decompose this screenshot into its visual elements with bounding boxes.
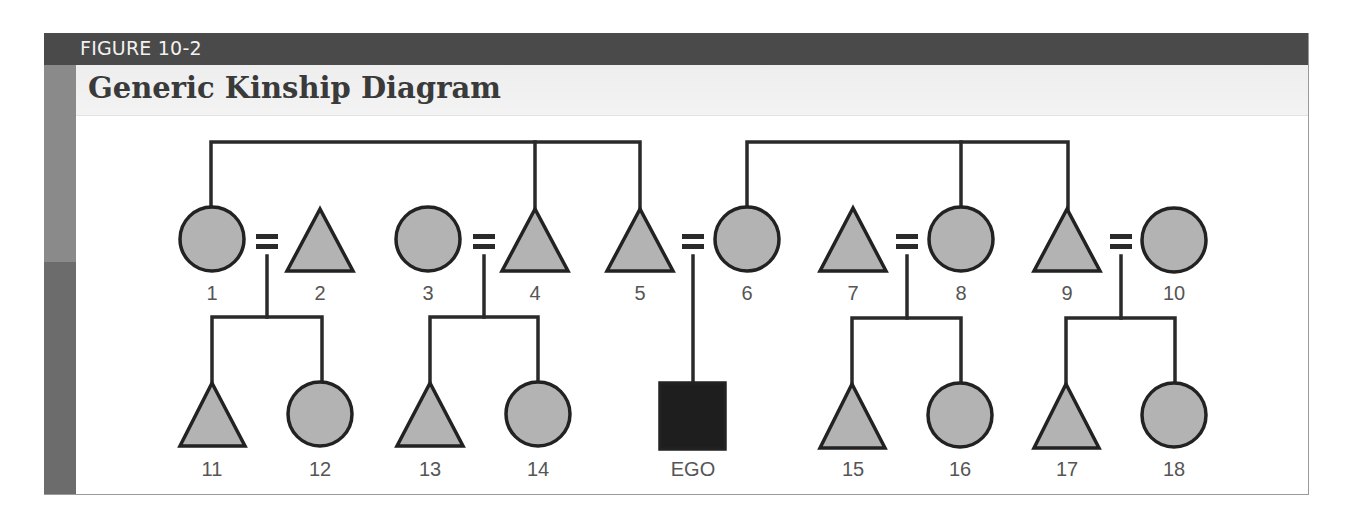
female-circle-icon xyxy=(1142,383,1206,447)
node-label: 8 xyxy=(955,282,966,304)
female-circle-icon xyxy=(396,207,460,271)
node-label: 1 xyxy=(206,282,217,304)
male-triangle-icon xyxy=(502,209,568,271)
equals-icon xyxy=(473,234,495,249)
male-triangle-icon xyxy=(1034,209,1100,271)
equals-icon xyxy=(896,234,918,249)
node-label: 9 xyxy=(1061,282,1072,304)
equals-icon xyxy=(256,234,278,249)
female-circle-icon xyxy=(1142,208,1206,272)
node-label: 12 xyxy=(309,458,331,480)
male-triangle-icon xyxy=(607,209,673,271)
sibling-line-right xyxy=(747,142,1068,209)
children-line-15-16 xyxy=(852,318,961,383)
node-label: 3 xyxy=(422,282,433,304)
female-circle-icon xyxy=(180,207,244,271)
kinship-diagram: 1 2 3 4 5 6 7 8 9 10 11 12 13 14 EGO 15 … xyxy=(0,0,1348,524)
equals-icon xyxy=(682,234,704,249)
male-triangle-icon xyxy=(180,383,245,446)
marriage-symbols xyxy=(256,234,1132,249)
generation-2 xyxy=(180,382,1206,449)
male-triangle-icon xyxy=(820,384,885,448)
node-label: 17 xyxy=(1056,458,1078,480)
male-triangle-icon xyxy=(287,209,353,271)
connector-lines xyxy=(211,142,1175,383)
node-label: 15 xyxy=(842,458,864,480)
male-triangle-icon xyxy=(820,208,886,271)
node-label: 10 xyxy=(1163,282,1185,304)
node-label: 4 xyxy=(529,282,540,304)
male-triangle-icon xyxy=(1034,384,1099,448)
equals-icon xyxy=(1110,234,1132,249)
male-triangle-icon xyxy=(397,383,463,446)
children-line-17-18 xyxy=(1066,318,1175,383)
female-circle-icon xyxy=(928,383,992,447)
ego-square-icon xyxy=(660,383,725,449)
node-label: 16 xyxy=(949,458,971,480)
ego-label: EGO xyxy=(671,458,715,480)
node-label: 18 xyxy=(1163,458,1185,480)
children-line-11-12 xyxy=(212,317,322,382)
sibling-line-left xyxy=(211,142,640,209)
node-label: 7 xyxy=(847,282,858,304)
node-label: 14 xyxy=(527,458,549,480)
female-circle-icon xyxy=(506,382,570,446)
node-label: 13 xyxy=(419,458,441,480)
node-label: 5 xyxy=(634,282,645,304)
node-label: 6 xyxy=(741,282,752,304)
children-line-13-14 xyxy=(430,317,538,382)
female-circle-icon xyxy=(288,382,352,446)
node-label: 11 xyxy=(202,458,223,480)
female-circle-icon xyxy=(715,207,779,271)
female-circle-icon xyxy=(929,207,993,271)
node-label: 2 xyxy=(314,282,325,304)
